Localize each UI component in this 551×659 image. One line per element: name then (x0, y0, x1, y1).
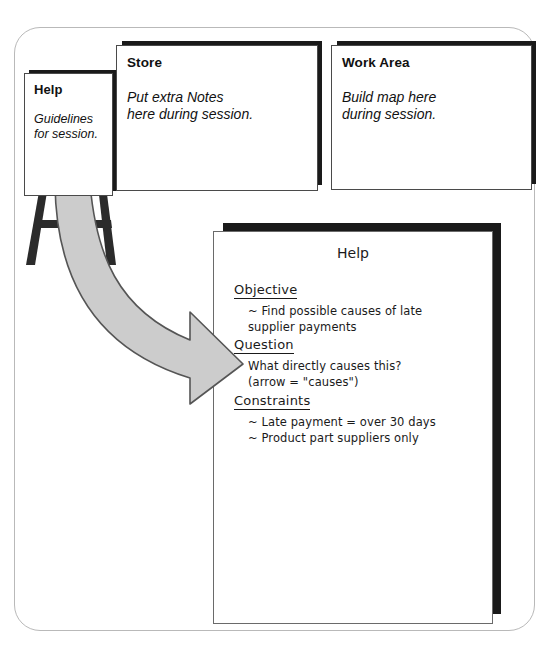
easel-help-panel[interactable]: Help Guidelines for session. (24, 73, 113, 196)
help-section-objective: Objective ~ Find possible causes of late… (234, 280, 422, 335)
store-panel[interactable]: Store Put extra Notes here during sessio… (116, 45, 318, 191)
work-area-panel-body: Build map here during session. (342, 89, 436, 122)
work-area-panel[interactable]: Work Area Build map here during session. (331, 45, 532, 190)
store-panel-body: Put extra Notes here during session. (127, 89, 253, 122)
curved-flow-arrow-shape (55, 184, 243, 404)
help-section-objective-lines: ~ Find possible causes of late supplier … (248, 304, 422, 335)
help-section-constraints-lines: ~ Late payment = over 30 days ~ Product … (248, 415, 436, 446)
easel-help-panel-body: Guidelines for session. (34, 112, 98, 142)
easel-help-panel-title: Help (34, 82, 63, 97)
help-document[interactable]: Help Objective ~ Find possible causes of… (213, 231, 493, 624)
help-document-title: Help (214, 245, 492, 261)
diagram-canvas: Help Guidelines for session. Store Put e… (0, 0, 551, 659)
work-area-panel-title: Work Area (342, 55, 410, 70)
curved-flow-arrow-icon (40, 182, 250, 407)
help-section-constraints: Constraints ~ Late payment = over 30 day… (234, 391, 436, 446)
help-section-question: Question What directly causes this? (arr… (234, 335, 401, 390)
help-section-question-lines: What directly causes this? (arrow = "cau… (248, 359, 401, 390)
store-panel-title: Store (127, 55, 162, 70)
